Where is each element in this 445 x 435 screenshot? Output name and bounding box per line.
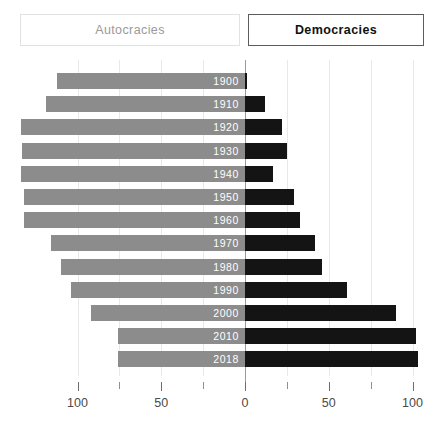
plot-area: 1900191019201930194019501960197019801990… (0, 60, 445, 382)
bar-democracies[interactable] (245, 143, 287, 159)
axis-tick (287, 382, 288, 389)
chart-row: 2018 (0, 351, 445, 367)
chart-row: 2000 (0, 305, 445, 321)
row-year-label: 2000 (193, 305, 239, 321)
row-year-label: 1990 (193, 282, 239, 298)
chart-row: 1920 (0, 119, 445, 135)
x-axis: 10050050100 (0, 382, 445, 427)
row-year-label: 1970 (193, 235, 239, 251)
toggle-autocracies-label: Autocracies (95, 23, 165, 37)
axis-tick-label: 100 (67, 396, 88, 410)
chart-row: 1940 (0, 166, 445, 182)
chart-row: 1950 (0, 189, 445, 205)
row-year-label: 1960 (193, 212, 239, 228)
bar-democracies[interactable] (245, 305, 396, 321)
bar-democracies[interactable] (245, 166, 273, 182)
axis-tick (371, 382, 372, 389)
row-year-label: 1930 (193, 143, 239, 159)
series-toggle-group: Autocracies Democracies (0, 14, 445, 46)
axis-tick-label: 100 (402, 396, 423, 410)
bar-democracies[interactable] (245, 189, 294, 205)
axis-tick-label: 50 (322, 396, 336, 410)
axis-tick-label: 50 (154, 396, 168, 410)
toggle-democracies-label: Democracies (295, 23, 377, 37)
row-year-label: 1920 (193, 119, 239, 135)
bar-democracies[interactable] (245, 73, 247, 89)
row-year-label: 1980 (193, 259, 239, 275)
chart-row: 1900 (0, 73, 445, 89)
axis-tick (119, 382, 120, 389)
bar-democracies[interactable] (245, 328, 416, 344)
chart-row: 2010 (0, 328, 445, 344)
row-year-label: 1950 (193, 189, 239, 205)
axis-tick-label: 0 (242, 396, 249, 410)
axis-tick (413, 382, 414, 391)
chart-row: 1990 (0, 282, 445, 298)
bar-democracies[interactable] (245, 259, 322, 275)
toggle-democracies[interactable]: Democracies (248, 14, 424, 46)
row-year-label: 1940 (193, 166, 239, 182)
chart-row: 1910 (0, 96, 445, 112)
axis-tick (245, 382, 246, 391)
row-year-label: 2010 (193, 328, 239, 344)
axis-tick (161, 382, 162, 391)
axis-tick (78, 382, 79, 391)
row-year-label: 1900 (193, 73, 239, 89)
toggle-autocracies[interactable]: Autocracies (20, 14, 240, 46)
chart-row: 1960 (0, 212, 445, 228)
chart-row: 1930 (0, 143, 445, 159)
bar-democracies[interactable] (245, 96, 265, 112)
axis-tick (329, 382, 330, 391)
bar-democracies[interactable] (245, 212, 300, 228)
chart-row: 1970 (0, 235, 445, 251)
chart-root: Autocracies Democracies 1900191019201930… (0, 0, 445, 435)
bar-democracies[interactable] (245, 119, 282, 135)
bar-democracies[interactable] (245, 282, 347, 298)
chart-row: 1980 (0, 259, 445, 275)
bar-democracies[interactable] (245, 351, 418, 367)
row-year-label: 1910 (193, 96, 239, 112)
row-year-label: 2018 (193, 351, 239, 367)
axis-tick (203, 382, 204, 389)
bar-democracies[interactable] (245, 235, 315, 251)
